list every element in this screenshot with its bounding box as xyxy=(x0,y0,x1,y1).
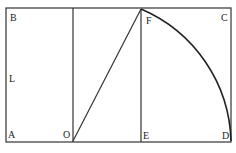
label-b: B xyxy=(10,13,17,23)
outer-rectangle xyxy=(6,8,231,142)
label-c: C xyxy=(221,13,228,23)
line-of xyxy=(73,9,141,141)
label-l: L xyxy=(9,74,15,84)
label-a: A xyxy=(8,130,15,140)
label-d: D xyxy=(222,131,229,141)
label-o: O xyxy=(63,130,70,140)
label-f: F xyxy=(146,16,152,26)
golden-rectangle-diagram xyxy=(0,0,236,153)
arc-fd xyxy=(141,9,231,141)
label-e: E xyxy=(143,131,149,141)
